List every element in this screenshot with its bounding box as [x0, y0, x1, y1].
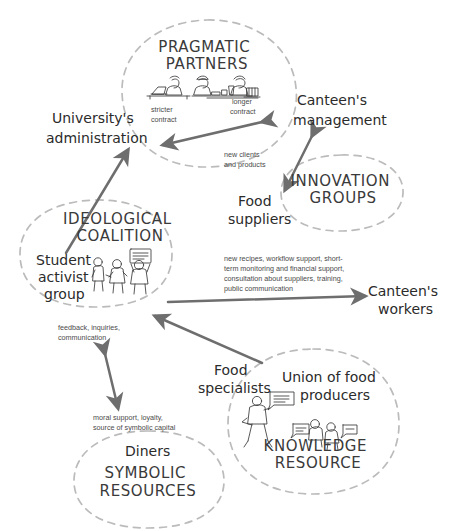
actor-canteens-management: Canteen's management — [293, 92, 387, 128]
cluster-label-knowledge-resource: KNOWLEDGE RESOURCE — [264, 437, 373, 472]
actor-university-administration: University's administration — [46, 110, 148, 146]
cluster-label-innovation-groups: INNOVATION GROUPS — [291, 172, 396, 207]
flow-label-new-clients-and-products: new clients and products — [224, 150, 266, 169]
stakeholder-diagram: PRAGMATIC PARTNERS INNOVATION GROUPS IDE… — [0, 0, 454, 531]
actor-food-suppliers: Food suppliers — [228, 193, 291, 227]
labels-layer: PRAGMATIC PARTNERS INNOVATION GROUPS IDE… — [0, 0, 454, 531]
flow-label-stricter-contract: stricter contract — [151, 105, 177, 124]
actor-diners: Diners — [125, 443, 170, 459]
flow-label-moral-support: moral support, loyalty, source of symbol… — [93, 413, 176, 432]
cluster-label-pragmatic-partners: PRAGMATIC PARTNERS — [158, 38, 255, 73]
flow-label-longer-contract: longer contract — [230, 97, 256, 116]
actor-union-of-food-producers: Union of food producers — [282, 369, 380, 403]
flow-label-support-package: new recipes, workflow support, short- te… — [224, 254, 346, 293]
cluster-label-ideological-coalition: IDEOLOGICAL COALITION — [63, 210, 177, 245]
flow-label-feedback-inquiries: feedback, inquiries, communication — [58, 323, 122, 342]
actor-student-activist-group: Student activist group — [36, 252, 96, 302]
actor-food-specialists: Food specialists — [198, 362, 271, 396]
actor-canteens-workers: Canteen's workers — [368, 283, 442, 317]
cluster-label-symbolic-resources: SYMBOLIC RESOURCES — [100, 464, 197, 500]
